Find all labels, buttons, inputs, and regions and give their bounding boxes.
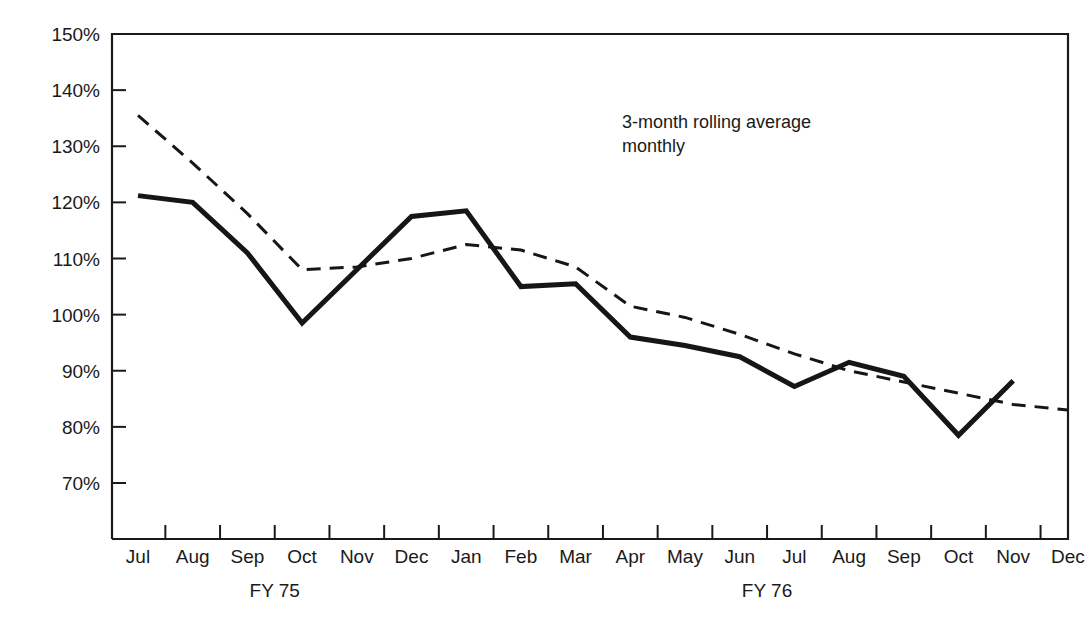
x-tick-label: Jul [126, 546, 150, 567]
x-tick-label: Aug [832, 546, 866, 567]
y-tick-label: 80% [62, 417, 100, 438]
annotation-line-2: monthly [622, 136, 685, 156]
x-tick-label: Feb [505, 546, 538, 567]
x-tick-label: Nov [996, 546, 1030, 567]
fiscal-year-label: FY 76 [742, 580, 792, 601]
chart-container: 70%80%90%100%110%120%130%140%150% JulAug… [0, 0, 1089, 623]
x-tick-label: Sep [230, 546, 264, 567]
annotation-line-1: 3-month rolling average [622, 112, 811, 132]
x-tick-label: Jul [782, 546, 806, 567]
y-tick-label: 140% [51, 80, 100, 101]
x-tick-label: Sep [887, 546, 921, 567]
y-tick-label: 130% [51, 136, 100, 157]
x-tick-label: May [667, 546, 703, 567]
x-tick-label: Apr [616, 546, 646, 567]
x-tick-label: Jun [724, 546, 755, 567]
x-tick-label: Oct [287, 546, 317, 567]
y-tick-label: 120% [51, 192, 100, 213]
x-tick-label: Oct [944, 546, 974, 567]
chart-background [0, 0, 1089, 623]
y-tick-label: 100% [51, 305, 100, 326]
x-tick-label: Mar [559, 546, 592, 567]
x-tick-label: Jan [451, 546, 482, 567]
y-tick-label: 110% [53, 249, 100, 270]
x-tick-label: Dec [395, 546, 429, 567]
x-tick-label: Dec [1051, 546, 1085, 567]
x-tick-label: Nov [340, 546, 374, 567]
y-tick-label: 70% [62, 473, 100, 494]
fiscal-year-label: FY 75 [250, 580, 300, 601]
line-chart: 70%80%90%100%110%120%130%140%150% JulAug… [0, 0, 1089, 623]
x-tick-label: Aug [176, 546, 210, 567]
y-tick-label: 150% [51, 24, 100, 45]
y-tick-label: 90% [62, 361, 100, 382]
